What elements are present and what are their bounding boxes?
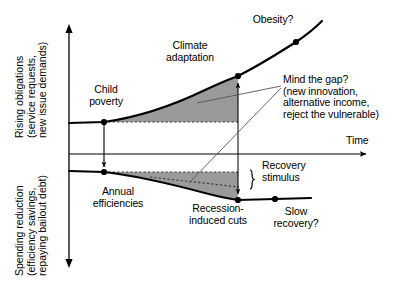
x-axis-label-time: Time	[346, 135, 386, 147]
y-axis-label-rising-obligations: Rising obligations (service requests, ne…	[14, 42, 49, 138]
annotation-child-poverty: Child poverty	[78, 84, 134, 107]
marker-annual-efficiencies	[101, 169, 107, 175]
marker-obesity	[293, 39, 299, 45]
annotation-slow-recovery: Slow recovery?	[268, 206, 324, 229]
annotation-obesity: Obesity?	[243, 14, 303, 26]
annotation-annual-efficiencies: Annual efficiencies	[82, 186, 154, 209]
annotation-recovery-stimulus: Recovery stimulus	[262, 160, 332, 183]
diagram-canvas: Rising obligations (service requests, ne…	[0, 0, 403, 282]
y-axis-arrow-down	[65, 259, 72, 268]
marker-child-poverty	[101, 119, 107, 125]
annotation-recession-induced-cuts: Recession- induced cuts	[178, 203, 258, 226]
marker-climate-apex	[235, 73, 241, 79]
annotation-mind-the-gap: Mind the gap? (new innovation, alternati…	[283, 74, 403, 120]
annotation-climate-adaptation: Climate adaptation	[152, 40, 228, 63]
marker-slow-recovery	[272, 196, 278, 202]
recovery-stimulus-brace	[250, 170, 254, 189]
y-axis-arrow-up	[65, 24, 72, 33]
y-axis-label-spending-reduction: Spending reduction (efficiency savings, …	[14, 175, 49, 276]
